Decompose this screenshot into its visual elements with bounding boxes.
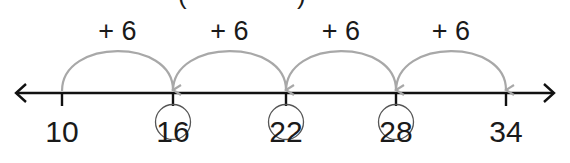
jump-label: + 6 <box>432 16 470 46</box>
jump-arc <box>173 51 286 91</box>
title-paren-right: ) <box>297 0 306 10</box>
ticks-group: 1016222834 <box>45 93 522 148</box>
jump-label: + 6 <box>98 16 136 46</box>
jump-arcs-group: + 6+ 6+ 6+ 6 <box>62 16 506 91</box>
jump-label: + 6 <box>322 16 360 46</box>
tick-label: 28 <box>379 115 412 148</box>
title-paren-left: ( <box>178 0 187 10</box>
tick-label: 34 <box>489 115 522 148</box>
tick-label: 10 <box>45 115 78 148</box>
tick-label: 22 <box>269 115 302 148</box>
tick-label: 16 <box>156 115 189 148</box>
jump-label: + 6 <box>210 16 248 46</box>
number-line-diagram: ( ) 1016222834 + 6+ 6+ 6+ 6 <box>0 0 570 163</box>
jump-arc <box>396 51 506 91</box>
jump-arc <box>62 51 173 91</box>
jump-arc <box>286 51 396 91</box>
